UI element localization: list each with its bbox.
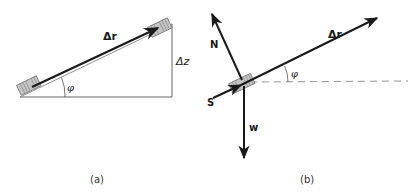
block-top (147, 18, 172, 37)
diagram-canvas (0, 0, 412, 194)
label-force-s: S (207, 98, 214, 108)
label-displacement-a: Δr (103, 31, 117, 42)
label-weight: w (249, 123, 258, 133)
label-normal-force: N (210, 40, 218, 50)
label-angle-a: φ (67, 83, 74, 93)
incline-surface-line (20, 24, 172, 97)
label-height-delta-z: Δz (176, 56, 189, 67)
label-angle-b: φ (291, 69, 298, 79)
caption-b: (b) (300, 174, 314, 185)
angle-arc-b (285, 66, 288, 82)
displacement-arrow-a (32, 28, 158, 87)
label-displacement-b: Δr (328, 29, 342, 40)
displacement-arrow-b (241, 18, 377, 85)
panel-b-forces (212, 14, 408, 158)
panel-a-incline (16, 18, 172, 97)
caption-a: (a) (90, 174, 104, 185)
angle-arc (62, 78, 66, 98)
horizontal-reference-dashed-line (250, 81, 408, 82)
